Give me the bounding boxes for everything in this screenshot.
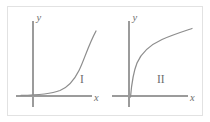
figure-root: y x I y x II <box>0 0 210 122</box>
panel-label-ii: II <box>157 73 165 85</box>
panel-label-i: I <box>80 73 84 85</box>
x-axis-label-panel-ii: x <box>189 92 195 103</box>
logarithmic-curve-panel-ii <box>131 29 193 98</box>
figure-frame: y x I y x II <box>7 6 203 116</box>
y-axis-label-panel-ii: y <box>132 12 138 23</box>
y-axis-label-panel-i: y <box>36 12 42 23</box>
graph-panel-ii: y x II <box>104 7 202 117</box>
exponential-curve-panel-i <box>21 31 96 95</box>
x-axis-label-panel-i: x <box>93 92 99 103</box>
graph-panel-i: y x I <box>8 7 106 117</box>
